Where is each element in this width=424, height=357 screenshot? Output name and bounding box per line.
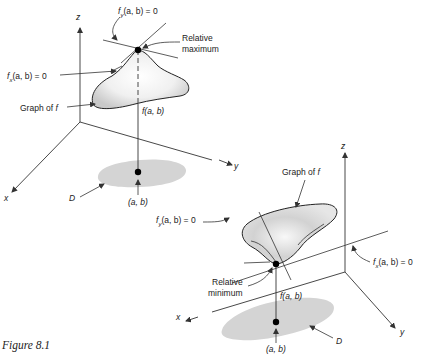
left-panel: z y x fy(a, b) = 0 Relative maximum fx(a… [3,6,239,207]
right-point-label: (a, b) [266,344,286,354]
right-z-axis-label: z [340,141,346,151]
right-domain-label: D [336,336,342,346]
right-fx-label: fx(a, b) = 0 [373,257,413,269]
left-x-axis [12,122,80,192]
left-extremum-leader [143,42,180,48]
right-fy-leader [203,218,229,222]
right-x-axis-label: x [175,312,181,322]
left-fy-leader [113,17,120,40]
left-domain-label: D [69,193,75,203]
right-min-point [273,261,279,267]
figure-caption: Figure 8.1 [1,339,50,352]
right-y-axis-label: y [399,327,405,337]
right-graph-leader [296,180,305,207]
right-y-axis [345,272,395,328]
left-domain-leader [80,184,104,197]
right-fx-leader [353,246,370,262]
left-fx-leader [60,71,116,75]
left-y-axis [80,122,212,160]
left-fy-label: fy(a, b) = 0 [118,6,158,18]
figure-canvas: z y x fy(a, b) = 0 Relative maximum fx(a… [0,0,424,357]
left-max-point [135,47,141,53]
left-x-axis-label: x [3,193,9,203]
right-extremum-label-2: minimum [208,288,242,298]
left-graph-label: Graph of f [20,103,59,113]
right-surface [242,204,337,264]
left-height-label: f(a, b) [142,106,164,116]
right-extremum-label-1: Relative [212,277,243,287]
left-y-axis-arrow [219,160,232,165]
left-extremum-label-2: maximum [182,44,219,54]
right-tangent-seg [244,262,270,263]
right-height-label: f(a, b) [280,291,302,301]
left-z-axis-label: z [75,12,81,22]
right-base-point [273,319,279,325]
left-surface [92,50,189,109]
left-fx-label: fx(a, b) = 0 [7,71,47,83]
left-point-label: (a, b) [128,197,148,207]
right-panel: z y x fy(a, b) = 0 Graph of f fx(a, b) =… [156,141,413,354]
right-graph-label: Graph of f [282,167,321,177]
right-x-axis-arrow [186,317,198,321]
left-graph-leader [67,104,95,107]
right-domain-leader [310,326,333,338]
left-extremum-label-1: Relative [182,33,213,43]
right-fy-label: fy(a, b) = 0 [156,215,196,227]
left-base-point [135,169,141,175]
left-domain-region [98,159,186,187]
left-y-axis-label: y [233,161,239,171]
